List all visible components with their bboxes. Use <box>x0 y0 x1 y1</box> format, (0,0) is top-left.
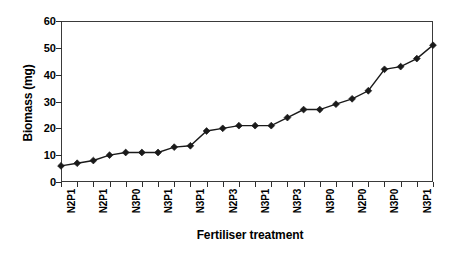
x-tick-label: N3P1 <box>422 189 433 213</box>
x-tick-mark <box>207 182 208 187</box>
x-tick-mark <box>61 182 62 187</box>
x-tick-mark <box>174 182 175 187</box>
x-tick-mark <box>239 182 240 187</box>
x-tick-label: N2P1 <box>98 189 109 213</box>
x-tick-mark <box>384 182 385 187</box>
x-tick-mark <box>401 182 402 187</box>
x-tick-label: N3P1 <box>195 189 206 213</box>
x-tick-mark <box>304 182 305 187</box>
x-tick-mark <box>417 182 418 187</box>
plot-area <box>61 21 433 182</box>
x-tick-label: N2P3 <box>228 189 239 213</box>
x-tick-mark <box>190 182 191 187</box>
x-tick-label: N3P1 <box>163 189 174 213</box>
x-tick-mark <box>271 182 272 187</box>
x-tick-label: N3P1 <box>260 189 271 213</box>
x-tick-mark <box>336 182 337 187</box>
x-axis-title: Fertiliser treatment <box>55 228 445 242</box>
x-tick-label: N3P0 <box>325 189 336 213</box>
x-tick-mark <box>142 182 143 187</box>
y-axis-title: Biomass (mg) <box>21 23 35 183</box>
x-tick-mark <box>320 182 321 187</box>
x-tick-label: N2P0 <box>357 189 368 213</box>
x-tick-mark <box>368 182 369 187</box>
x-tick-mark <box>223 182 224 187</box>
x-tick-mark <box>158 182 159 187</box>
x-tick-label: N3P0 <box>131 189 142 213</box>
x-tick-mark <box>77 182 78 187</box>
x-tick-mark <box>255 182 256 187</box>
x-tick-label: N3P0 <box>389 189 400 213</box>
x-tick-mark <box>287 182 288 187</box>
x-tick-mark <box>126 182 127 187</box>
x-tick-label: N3P3 <box>292 189 303 213</box>
x-tick-mark <box>110 182 111 187</box>
x-tick-mark <box>433 182 434 187</box>
chart-figure: Biomass (mg) 0102030405060 N2P1N2P1N3P0N… <box>0 0 449 256</box>
x-tick-mark <box>93 182 94 187</box>
x-tick-label: N2P1 <box>66 189 77 213</box>
x-tick-mark <box>352 182 353 187</box>
